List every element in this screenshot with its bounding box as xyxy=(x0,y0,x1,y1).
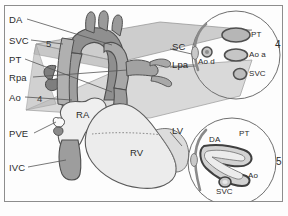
section-5-label-svc: SVC xyxy=(216,188,233,196)
brachiocephalic-branch xyxy=(86,12,96,33)
section-5-label-da: DA xyxy=(209,136,220,144)
label-da: DA xyxy=(9,15,22,25)
anatomy-illustration xyxy=(0,0,288,216)
label-pve: PVE xyxy=(9,129,28,139)
section-4-svc xyxy=(234,69,247,80)
left-carotid-branch xyxy=(99,11,109,31)
label-ivc: IVC xyxy=(9,163,25,173)
section-4-label-svc: SVC xyxy=(249,70,266,78)
section-5-number: 5 xyxy=(276,157,282,167)
label-lpa: Lpa xyxy=(172,60,188,70)
label-rpa: Rpa xyxy=(9,73,27,83)
section-5-label-pt: PT xyxy=(239,130,249,138)
section-4-label-ao-d: Ao d xyxy=(198,58,215,66)
pve-knot xyxy=(54,127,63,135)
section-4-ao-d-lumen xyxy=(205,50,209,54)
anatomy-figure: DA SVC PT Rpa Ao PVE IVC SC Lpa LV RA RV… xyxy=(0,0,288,216)
plane-number-4: 4 xyxy=(37,94,42,104)
label-lv: LV xyxy=(172,126,183,136)
section-4-pt xyxy=(222,28,250,42)
section-5-label-ao: Ao xyxy=(248,172,258,180)
section-5-sternum xyxy=(191,154,198,167)
section-5-svc-lumen xyxy=(222,180,227,184)
section-4-label-pt: PT xyxy=(251,31,261,39)
label-rv: RV xyxy=(130,148,143,158)
inferior-vena-cava xyxy=(59,140,81,180)
label-ra: RA xyxy=(76,110,89,120)
section-4-ao-a xyxy=(225,49,248,61)
section-4-number: 4 xyxy=(275,40,281,50)
section-4-label-ao-a: Ao a xyxy=(249,51,266,59)
label-pt: PT xyxy=(9,55,21,65)
label-svc: SVC xyxy=(9,36,29,46)
plane-number-5: 5 xyxy=(46,39,51,49)
label-ao: Ao xyxy=(9,93,21,103)
label-sc: SC xyxy=(172,42,185,52)
